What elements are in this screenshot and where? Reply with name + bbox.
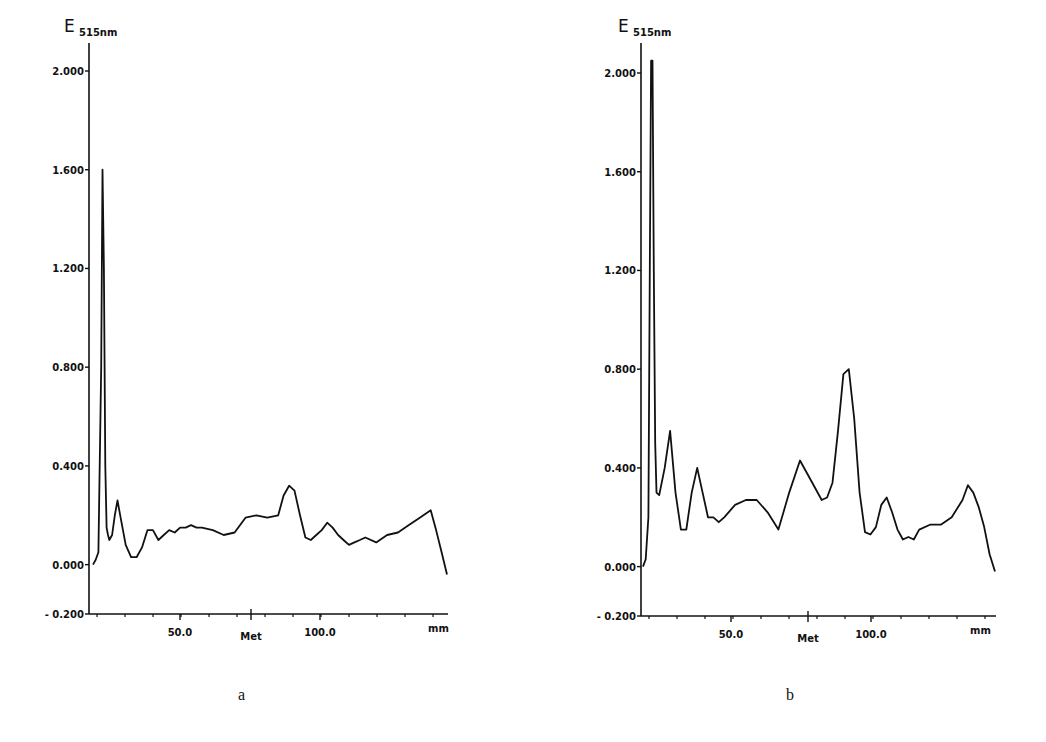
y-tick-label: 2.000 [604, 68, 636, 79]
y-tick-label: 0.800 [52, 362, 84, 373]
y-tick-label: 0.000 [604, 562, 636, 573]
y-axis-label-a: E [64, 16, 75, 36]
y-tick-label: 1.200 [52, 263, 84, 274]
x-tick-label: 100.0 [855, 629, 887, 640]
y-axis-unit-b: 515nm [633, 27, 671, 38]
y-tick-label: - 0.200 [597, 611, 636, 622]
chart-a: E 515nm 2.0001.6001.2000.8000.4000.000- … [45, 16, 449, 642]
y-tick-label: 1.600 [52, 165, 84, 176]
y-tick-label: 0.000 [52, 560, 84, 571]
y-ticks-b: 2.0001.6001.2000.8000.4000.000- 0.200 [597, 68, 641, 622]
y-axis-label-b: E [618, 16, 629, 36]
y-tick-label: 0.800 [604, 364, 636, 375]
x-unit-label-a: mm [428, 623, 449, 634]
met-marker-label: Met [240, 631, 262, 642]
x-tick-label: 50.0 [719, 629, 744, 640]
x-unit-label-b: mm [970, 625, 991, 636]
y-tick-label: 0.400 [52, 461, 84, 472]
y-tick-label: 1.200 [604, 265, 636, 276]
y-tick-label: - 0.200 [45, 609, 84, 620]
y-tick-label: 1.600 [604, 167, 636, 178]
y-tick-label: 2.000 [52, 66, 84, 77]
y-ticks-a: 2.0001.6001.2000.8000.4000.000- 0.200 [45, 66, 89, 620]
y-axis-unit-a: 515nm [79, 27, 117, 38]
absorbance-line-b [643, 61, 995, 572]
met-marker-label: Met [797, 633, 819, 644]
chart-b: E 515nm 2.0001.6001.2000.8000.4000.000- … [597, 16, 996, 644]
x-tick-label: 100.0 [304, 627, 336, 638]
figure-canvas: E 515nm 2.0001.6001.2000.8000.4000.000- … [0, 0, 1046, 742]
y-tick-label: 0.400 [604, 463, 636, 474]
absorbance-line-a [93, 170, 447, 575]
caption-b: b [786, 686, 794, 704]
x-tick-label: 50.0 [168, 627, 193, 638]
caption-a: a [238, 686, 245, 704]
